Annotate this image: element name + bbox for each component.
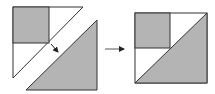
- gray-square: [13, 7, 49, 43]
- finished-block: [135, 13, 207, 83]
- block-gray-square: [135, 13, 170, 48]
- join-arrow-icon: [51, 44, 58, 52]
- quilt-diagram: [0, 0, 215, 94]
